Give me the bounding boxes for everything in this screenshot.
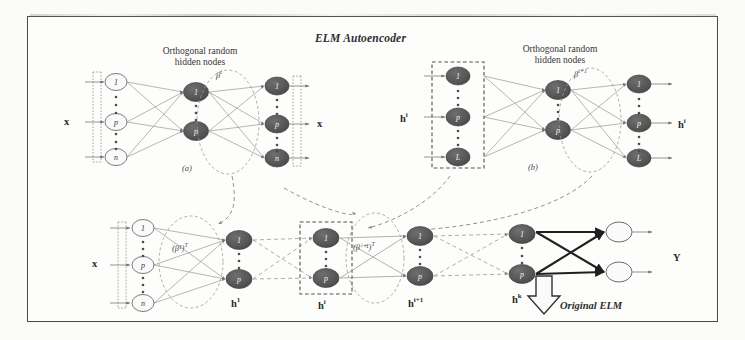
stacked-layer-i1-label: hi+1 (408, 296, 423, 310)
panel-b-header-line2: hidden nodes (500, 55, 620, 66)
figure-title: ELM Autoencoder (315, 32, 406, 46)
stacked-layer-i1-weight-symbol: (βⁱ⁺¹) (353, 242, 371, 252)
panel-a-output-label: x (317, 118, 322, 130)
stacked-layer-i1-weight-label: (βⁱ⁺¹)T (353, 241, 375, 252)
stacked-layer-i1-weight-superscript: T (371, 241, 374, 247)
panel-b-header-line1: Orthogonal random (500, 44, 620, 55)
panel-b-header: Orthogonal random hidden nodes (500, 44, 620, 66)
panel-b-input-label: hi (400, 111, 408, 125)
stacked-layer-i-label: hi (318, 298, 326, 312)
panel-a-header-line1: Orthogonal random (140, 46, 260, 57)
stacked-layer-k-label: hk (512, 292, 522, 306)
panel-b-weight-superscript: i+1 (578, 68, 587, 74)
panel-b-input-superscript: i (406, 111, 408, 119)
original-elm-annotation: Original ELM (560, 300, 622, 312)
stacked-layer1-weight-symbol: (β¹) (172, 243, 184, 253)
panel-a-header: Orthogonal random hidden nodes (140, 46, 260, 68)
panel-b-caption: (b) (528, 162, 538, 172)
panel-a-header-line2: hidden nodes (140, 57, 260, 68)
stacked-layer-i1-superscript: i+1 (414, 296, 423, 304)
stacked-input-label: x (92, 258, 97, 270)
panel-b-weight-label: βi+1 (574, 68, 587, 79)
stacked-layer-k-superscript: k (518, 292, 522, 300)
panel-b-output-superscript: i (684, 117, 686, 125)
stacked-layer1-superscript: 1 (237, 296, 241, 304)
panel-a-caption: (a) (182, 163, 192, 173)
stacked-layer1-label: h1 (231, 296, 240, 310)
panel-a-weight-label: βi (216, 69, 222, 80)
panel-b-output-label: hi (678, 117, 686, 131)
stacked-layer1-weight-label: (β¹)T (172, 242, 188, 253)
panel-a-input-label: x (64, 116, 69, 128)
stacked-output-label: Y (673, 252, 681, 264)
elm-autoencoder-figure: ELM Autoencoder Orthogonal random hidden… (0, 0, 745, 340)
stacked-layer-i-superscript: i (324, 298, 326, 306)
stacked-layer1-weight-superscript: T (184, 242, 187, 248)
panel-a-weight-superscript: i (220, 69, 222, 75)
